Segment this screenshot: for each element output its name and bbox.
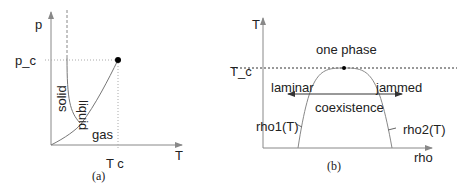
critical-point bbox=[115, 57, 121, 63]
rho-axis-label: rho bbox=[414, 150, 433, 165]
solid-label: solid bbox=[54, 85, 69, 112]
pc-label: p_c bbox=[15, 53, 36, 68]
p-axis-label: p bbox=[35, 17, 42, 32]
t-axis-label: T bbox=[175, 148, 183, 163]
phase-diagrams: p p_c T T c gas solid liquid (a) T T_c o… bbox=[0, 0, 457, 191]
one-phase-label: one phase bbox=[316, 42, 377, 57]
caption-a: (a) bbox=[92, 169, 105, 183]
panel-b: T T_c one phase laminar jammed coexisten… bbox=[230, 17, 457, 173]
gas-label: gas bbox=[92, 127, 113, 142]
coexistence-label: coexistence bbox=[315, 100, 384, 115]
jammed-label: jammed bbox=[375, 80, 422, 95]
laminar-label: laminar bbox=[271, 80, 314, 95]
liquid-label: liquid bbox=[76, 100, 91, 130]
caption-b: (b) bbox=[327, 159, 341, 173]
tc-label: T c bbox=[106, 156, 124, 171]
rho1-label: rho1(T) bbox=[256, 119, 299, 134]
tc-label-b: T_c bbox=[230, 64, 252, 79]
critical-point-b bbox=[342, 66, 346, 70]
panel-a: p p_c T T c gas solid liquid (a) bbox=[15, 10, 183, 183]
rho2-leader bbox=[388, 128, 396, 130]
t-axis-label-b: T bbox=[252, 17, 260, 32]
rho2-label: rho2(T) bbox=[403, 122, 446, 137]
